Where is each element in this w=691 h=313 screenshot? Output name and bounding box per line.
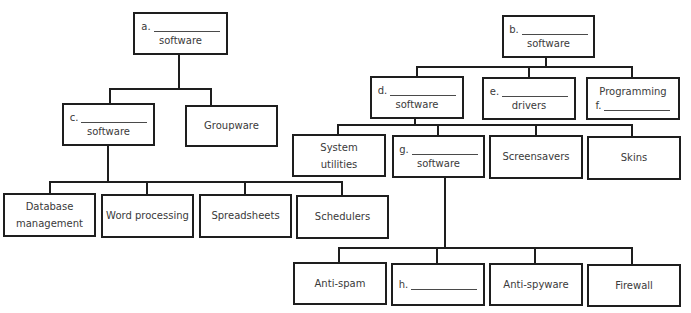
box-d-software: d. software — [370, 76, 464, 119]
box-groupware: Groupware — [185, 105, 278, 147]
answer-blank-a[interactable] — [154, 21, 220, 32]
box-system-utilities: System utilities — [292, 134, 386, 177]
box-label: Screensavers — [502, 150, 569, 164]
label-letter: a. — [141, 20, 150, 34]
answer-blank-d[interactable] — [390, 85, 456, 96]
label-letter: d. — [378, 84, 388, 98]
box-suffix: software — [396, 98, 439, 112]
box-h-blank: h. — [391, 263, 485, 306]
box-prefix: Programming — [599, 85, 666, 99]
box-screensavers: Screensavers — [489, 135, 583, 179]
box-suffix: drivers — [512, 99, 547, 113]
box-label: Anti-spyware — [503, 278, 568, 292]
box-label: Skins — [621, 151, 647, 165]
box-a-software: a. software — [133, 12, 228, 55]
label-letter: h. — [399, 278, 409, 292]
answer-blank-g[interactable] — [412, 144, 478, 155]
answer-blank-h[interactable] — [411, 279, 477, 290]
box-suffix: software — [159, 34, 202, 48]
box-label: Spreadsheets — [211, 209, 279, 223]
box-word-processing: Word processing — [101, 194, 194, 238]
box-anti-spyware: Anti-spyware — [489, 263, 583, 306]
box-suffix: software — [417, 157, 460, 171]
answer-blank-e[interactable] — [502, 86, 568, 97]
answer-blank-c[interactable] — [81, 112, 147, 123]
box-label: Schedulers — [315, 210, 370, 224]
box-g-software: g. software — [392, 135, 485, 178]
box-firewall: Firewall — [587, 264, 681, 307]
label-letter: e. — [490, 85, 499, 99]
box-schedulers: Schedulers — [296, 195, 389, 239]
box-database-management: Database management — [3, 193, 96, 237]
answer-blank-f[interactable] — [604, 100, 670, 111]
label-letter: b. — [509, 23, 519, 37]
box-b-software: b. software — [502, 15, 595, 58]
box-anti-spam: Anti-spam — [293, 262, 387, 305]
label-letter: f. — [596, 99, 602, 113]
box-e-drivers: e. drivers — [482, 77, 576, 120]
box-skins: Skins — [587, 136, 681, 180]
box-label: Firewall — [615, 279, 653, 293]
label-letter: g. — [399, 143, 409, 157]
box-spreadsheets: Spreadsheets — [199, 194, 292, 238]
answer-blank-b[interactable] — [522, 24, 588, 35]
box-label: Anti-spam — [315, 277, 366, 291]
box-label: Database management — [11, 198, 88, 232]
box-label: Groupware — [204, 119, 259, 133]
box-suffix: software — [87, 125, 130, 139]
box-label: System utilities — [308, 139, 370, 173]
label-letter: c. — [70, 111, 79, 125]
box-label: Word processing — [106, 209, 189, 223]
box-suffix: software — [527, 37, 570, 51]
box-f-programming: Programming f. — [586, 77, 680, 120]
box-c-software: c. software — [62, 103, 155, 146]
